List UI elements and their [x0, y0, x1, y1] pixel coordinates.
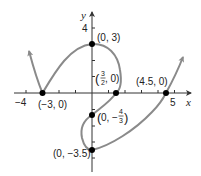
label-3half-0: ( 3 2 , 0) [95, 70, 119, 86]
svg-text:): ) [124, 110, 128, 125]
curve [29, 51, 43, 93]
svg-text:4: 4 [119, 108, 123, 115]
curve [43, 44, 184, 150]
point-0-neg4thirds [89, 112, 95, 118]
point-4.5-0 [163, 90, 169, 96]
point-3half-0 [113, 90, 119, 96]
tick-label-4: 4 [82, 23, 88, 34]
label-0-neg3.5: (0, −3.5) [53, 148, 91, 159]
point-0-3 [89, 41, 95, 47]
svg-text:0, −: 0, − [101, 112, 118, 123]
svg-text:3: 3 [119, 117, 123, 124]
label-neg3-0: (−3, 0) [38, 99, 67, 110]
label-4.5-0: (4.5, 0) [136, 76, 168, 87]
label-0-neg4thirds: ( 0, − 4 3 ) [97, 108, 128, 125]
point-neg3-0 [40, 90, 46, 96]
tick-label-5: 5 [170, 97, 176, 108]
y-axis-label: y [80, 9, 86, 21]
svg-text:, 0): , 0) [105, 73, 119, 84]
label-0-3: (0, 3) [97, 32, 120, 43]
tick-label-neg4: −4 [15, 97, 27, 108]
svg-text:(: ( [95, 71, 100, 86]
x-axis-label: x [185, 96, 191, 108]
graph: y x −4 5 4 (−3, 0) (0, 3) (4.5, 0) (0, −… [0, 0, 201, 176]
data-points [40, 41, 170, 153]
